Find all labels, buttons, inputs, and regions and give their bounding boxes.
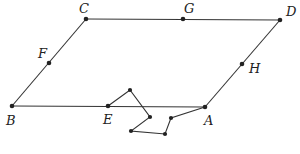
- label-d: D: [285, 4, 297, 19]
- label-g: G: [184, 1, 194, 16]
- path-point: [129, 129, 133, 133]
- label-b: B: [5, 113, 16, 128]
- point-b: [10, 104, 15, 109]
- label-e: E: [102, 112, 113, 127]
- label-c: C: [79, 1, 89, 16]
- parallelogram-diagram: A B C D E F G H: [0, 0, 300, 154]
- path-point: [163, 132, 167, 136]
- point-c: [84, 17, 89, 22]
- label-f: F: [37, 46, 48, 61]
- point-e: [106, 104, 111, 109]
- zigzag-path: [108, 90, 205, 134]
- point-d: [278, 18, 283, 23]
- label-a: A: [203, 113, 213, 128]
- point-g: [181, 17, 186, 22]
- path-point: [169, 116, 173, 120]
- point-f: [47, 61, 52, 66]
- label-h: H: [248, 61, 261, 76]
- path-point: [128, 88, 132, 92]
- point-a: [203, 105, 208, 110]
- path-point: [148, 115, 152, 119]
- point-h: [240, 62, 245, 67]
